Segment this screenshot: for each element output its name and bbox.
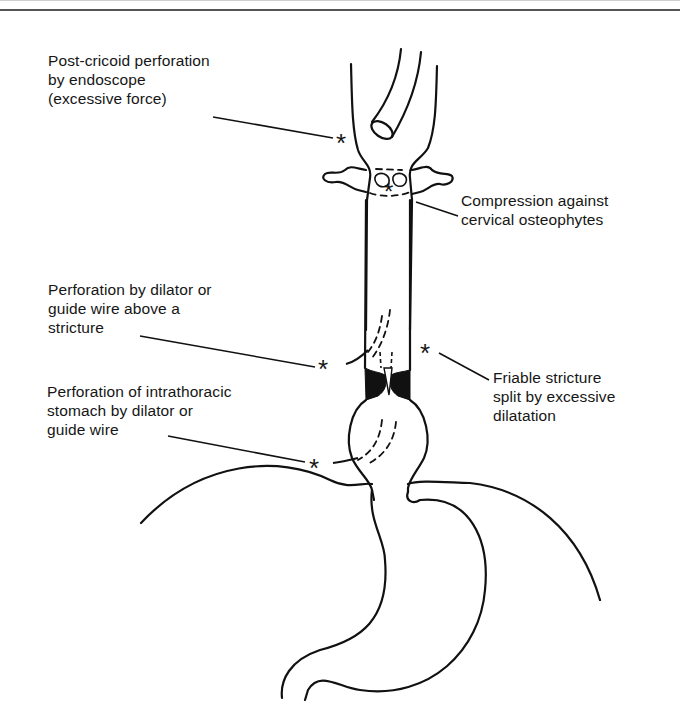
stricture-right: [390, 370, 410, 400]
stricture-left: [365, 368, 386, 400]
diaphragm-left: [141, 466, 372, 523]
label-friable-stricture: Friable stricture split by excessive dil…: [493, 368, 615, 425]
vertebra-left-process: [323, 167, 366, 192]
marker-post-cricoid: *: [336, 130, 346, 156]
pharynx-right-wall: [410, 66, 437, 330]
label-intrathoracic-stomach: Perforation of intrathoracic stomach by …: [47, 382, 232, 439]
osteophyte-right: [393, 173, 407, 186]
hiatus-bulb-right: [408, 400, 428, 492]
guide-wire-lower-2: [366, 422, 396, 465]
marker-above-stricture: *: [318, 356, 328, 382]
stomach-greater-curve: [305, 492, 486, 700]
marker-intrathoracic: *: [309, 455, 319, 481]
stomach-lesser-curve: [282, 490, 386, 698]
leader-friable: [439, 353, 489, 380]
pharynx-left-wall: [351, 64, 370, 330]
endoscope-right: [392, 52, 421, 137]
leader-cervical: [416, 202, 458, 216]
endoscope-left: [372, 49, 401, 122]
guide-wire-lower-1: [358, 420, 382, 460]
marker-friable-stricture: *: [420, 340, 430, 366]
marker-cervical: *: [384, 180, 393, 204]
oesophagus-left-wall-lower: [365, 200, 366, 368]
vertebra-right-process: [412, 167, 453, 194]
label-cervical-osteophytes: Compression against cervical osteophytes: [461, 191, 609, 229]
leader-intrathoracic: [168, 436, 305, 462]
leader-above-stricture: [140, 336, 315, 367]
leader-post-cricoid: [213, 117, 333, 138]
lumen-lines: [380, 352, 392, 368]
label-post-cricoid-perforation: Post-cricoid perforation by endoscope (e…: [48, 51, 210, 108]
label-perforation-above-stricture: Perforation by dilator or guide wire abo…: [48, 280, 212, 337]
cervical-dashes-top: [376, 169, 402, 170]
